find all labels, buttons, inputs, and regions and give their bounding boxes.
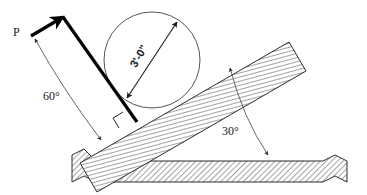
force-vector-p bbox=[31, 17, 63, 36]
strut-line bbox=[63, 17, 137, 122]
strut-member bbox=[63, 17, 137, 122]
right-angle-marker bbox=[113, 112, 123, 128]
right-angle-square bbox=[113, 112, 123, 128]
length-dimension-label: 3'-0" bbox=[127, 43, 149, 70]
force-label-p: P bbox=[13, 25, 20, 39]
force-angle-label: 60° bbox=[43, 89, 60, 103]
incline-angle-label: 30° bbox=[222, 124, 239, 138]
diagram-canvas: P 60° 30° 3'-0" bbox=[0, 0, 367, 195]
force-vector-arrow bbox=[31, 17, 63, 36]
engineering-diagram: P 60° 30° 3'-0" bbox=[0, 0, 367, 195]
